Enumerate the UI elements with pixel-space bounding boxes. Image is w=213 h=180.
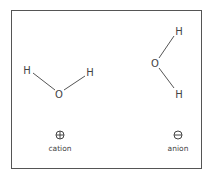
anion-h-top: H xyxy=(175,26,183,37)
plus-circle-icon xyxy=(56,131,64,139)
minus-circle-icon xyxy=(174,131,182,139)
cation-label: cation xyxy=(48,144,71,153)
anion-label: anion xyxy=(168,144,189,153)
cation-h-left: H xyxy=(23,65,31,76)
cation-h-right: H xyxy=(86,67,94,78)
anion-h-bottom: H xyxy=(175,89,183,100)
cation-molecule: H O H xyxy=(23,65,94,100)
diagram-canvas: H O H H O H cation anion xyxy=(0,0,213,180)
anion-o: O xyxy=(151,58,159,69)
anion-molecule: H O H xyxy=(151,26,183,100)
cation-o: O xyxy=(55,89,63,100)
